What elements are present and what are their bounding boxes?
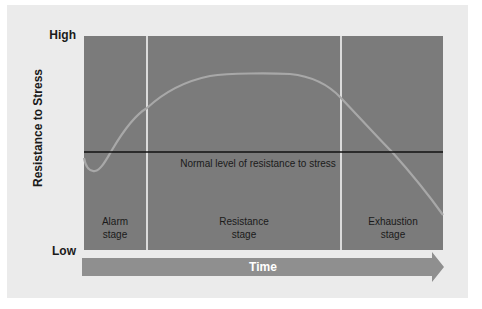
- y-axis-high-label: High: [49, 28, 76, 42]
- y-axis-title: Resistance to Stress: [31, 69, 45, 187]
- stage-alarm-label-2: stage: [103, 229, 128, 240]
- stage-resistance-label-1: Resistance: [219, 216, 269, 227]
- stress-diagram: Normal level of resistance to stress Ala…: [0, 0, 482, 309]
- stage-resistance-label-2: stage: [232, 229, 257, 240]
- stage-exhaustion-label-1: Exhaustion: [368, 216, 417, 227]
- x-axis-time-label: Time: [249, 260, 277, 274]
- y-axis-low-label: Low: [52, 244, 77, 258]
- stage-exhaustion-label-2: stage: [381, 229, 406, 240]
- normal-level-label: Normal level of resistance to stress: [180, 158, 336, 169]
- stage-alarm-label-1: Alarm: [102, 216, 128, 227]
